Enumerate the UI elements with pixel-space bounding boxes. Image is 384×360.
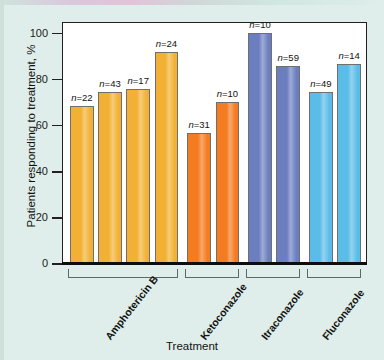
bar: n=49	[309, 92, 333, 263]
bar: n=22	[70, 106, 94, 263]
bar-value-label: n=49	[310, 78, 331, 89]
group-bracket	[307, 269, 361, 278]
bar: n=17	[126, 89, 150, 263]
group-label: Fluconazole	[319, 287, 366, 342]
x-axis-title: Treatment	[0, 340, 384, 352]
top-edge-strip	[0, 0, 384, 5]
bar: n=43	[98, 92, 122, 263]
y-axis-tick-label: 100	[14, 28, 48, 38]
bar-value-label: n=59	[278, 52, 299, 63]
y-axis-tick	[52, 125, 62, 127]
bar-value-label: n=14	[338, 50, 359, 61]
y-axis-tick-label: 40	[14, 166, 48, 176]
y-axis-tick-label: 80	[14, 74, 48, 84]
bar: n=10	[216, 102, 240, 263]
bar-value-label: n=10	[249, 19, 270, 30]
bar-value-label: n=31	[188, 119, 209, 130]
group-label: Ketoconazole	[198, 281, 249, 342]
y-axis-tick	[52, 263, 62, 265]
y-axis-tick	[52, 171, 62, 173]
bar: n=24	[155, 52, 179, 263]
group-bracket	[246, 269, 300, 278]
bar-value-label: n=22	[71, 92, 92, 103]
bar-value-label: n=43	[99, 78, 120, 89]
plot-area: n=22n=43n=17n=24n=31n=10n=10n=59n=49n=14	[62, 22, 367, 264]
bar-series: n=22n=43n=17n=24n=31n=10n=10n=59n=49n=14	[63, 23, 366, 263]
y-axis-tick	[52, 217, 62, 219]
y-axis-tick-label: 60	[14, 120, 48, 130]
left-edge-strip	[0, 0, 4, 360]
group-label: Itraconazole	[258, 286, 305, 342]
y-axis-tick-label: 0	[14, 258, 48, 268]
group-label: Amphotericin B	[103, 273, 161, 342]
bar: n=10	[248, 33, 272, 263]
bar-value-label: n=10	[217, 88, 238, 99]
bar: n=59	[276, 66, 300, 263]
bar-value-label: n=17	[128, 75, 149, 86]
y-axis-tick	[52, 33, 62, 35]
group-bracket	[68, 269, 178, 278]
bar: n=31	[187, 133, 211, 263]
bar: n=14	[337, 64, 361, 263]
chart-figure: Patients responding to treatment, % 0204…	[0, 0, 384, 360]
x-axis-baseline	[62, 262, 367, 265]
y-axis-tick-label: 20	[14, 212, 48, 222]
y-axis-tick	[52, 79, 62, 81]
bar-value-label: n=24	[156, 38, 177, 49]
group-bracket	[185, 269, 239, 278]
